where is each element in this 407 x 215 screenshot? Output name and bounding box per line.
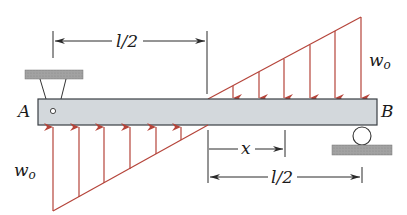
dim-bottom-label: l/2 xyxy=(271,167,293,187)
dimension-top-half-length: l/2 xyxy=(53,31,207,94)
beam xyxy=(38,99,377,125)
distributed-load-top: wo xyxy=(208,17,391,99)
roller-icon xyxy=(353,127,371,145)
support-b-roller xyxy=(332,127,392,155)
label-a: A xyxy=(16,101,30,121)
dimension-bottom-half-length: l/2 xyxy=(210,167,362,187)
beam-diagram: l/2 wo A B wo xyxy=(0,0,407,215)
distributed-load-bottom: wo xyxy=(14,125,208,211)
support-a-hanger xyxy=(25,70,83,99)
load-bottom-label: wo xyxy=(14,160,36,182)
dim-x-label: x xyxy=(241,138,251,158)
dim-top-label: l/2 xyxy=(116,31,138,51)
label-b: B xyxy=(380,101,394,121)
load-top-label: wo xyxy=(369,50,391,72)
pin-a-icon xyxy=(50,108,55,113)
